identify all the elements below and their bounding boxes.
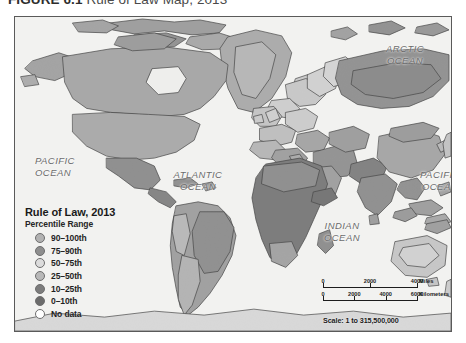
legend-item: 90–100th <box>25 232 131 245</box>
legend-label: 25–50th <box>51 271 82 281</box>
map-legend: Rule of Law, 2013 Percentile Range 90–10… <box>21 204 133 323</box>
legend-label: No data <box>51 309 81 319</box>
scale-tick-label: 4000 <box>411 278 423 284</box>
legend-swatch <box>35 258 45 268</box>
legend-item: 75–90th <box>25 244 131 257</box>
legend-swatch <box>35 296 45 306</box>
figure-number: FIGURE 6.1 <box>8 0 83 7</box>
scale-tick-label: 2000 <box>348 291 360 297</box>
legend-label: 10–25th <box>51 284 82 294</box>
scale-tick-label: 0 <box>321 278 324 284</box>
scale-ratio-text: Scale: 1 to 315,500,000 <box>323 316 445 325</box>
legend-item-list: 90–100th75–90th50–75th25–50th10–25th0–10… <box>25 232 131 320</box>
legend-item: No data <box>25 307 131 320</box>
legend-swatch <box>35 246 45 256</box>
legend-swatch <box>35 271 45 281</box>
legend-label: 90–100th <box>51 233 87 243</box>
legend-label: 75–90th <box>51 246 82 256</box>
legend-swatch <box>35 233 45 243</box>
legend-label: 50–75th <box>51 258 82 268</box>
figure-caption: FIGURE 6.1 Rule of Law Map, 2013 <box>8 0 227 9</box>
legend-swatch <box>35 284 45 294</box>
scale-tick-label: 4000 <box>379 291 391 297</box>
scale-line-kilometers <box>323 300 417 301</box>
legend-label: 0–10th <box>51 296 77 306</box>
scale-row-kilometers: Kilometers 0200040006000 <box>323 294 445 307</box>
scale-unit-kilometers: Kilometers <box>419 291 449 297</box>
scale-tick-label: 6000 <box>411 291 423 297</box>
legend-item: 50–75th <box>25 257 131 270</box>
figure-title: Rule of Law Map, 2013 <box>86 0 227 7</box>
legend-subtitle: Percentile Range <box>25 219 131 229</box>
legend-title: Rule of Law, 2013 <box>25 206 131 218</box>
map-frame: PACIFIC OCEAN ATLANTIC OCEAN ARCTIC OCEA… <box>14 16 452 332</box>
scale-tick-label: 0 <box>321 291 324 297</box>
map-scale-bar: Miles 020004000 Kilometers 0200040006000… <box>323 281 445 325</box>
scale-tick-label: 2000 <box>364 278 376 284</box>
legend-item: 25–50th <box>25 270 131 283</box>
legend-item: 0–10th <box>25 295 131 308</box>
legend-item: 10–25th <box>25 282 131 295</box>
legend-swatch <box>35 309 45 319</box>
